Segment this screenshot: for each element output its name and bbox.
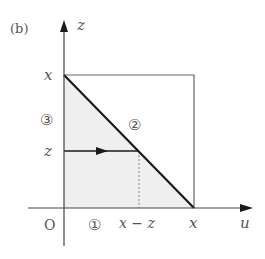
u-axis-tick-x-minus-z: x − z [119, 215, 156, 231]
region-label-1: ① [88, 216, 101, 234]
region-label-3: ③ [40, 111, 53, 129]
z-axis-tick-x: x [44, 66, 53, 84]
z-axis-tick-z: z [43, 142, 52, 160]
u-axis-tick-x: x [189, 214, 198, 232]
z-axis-arrow-icon [60, 20, 68, 32]
z-axis-label: z [76, 16, 85, 34]
region-label-2: ② [128, 116, 141, 134]
diagram-canvas: (b) z x z ③ ② O ① x − z x u [0, 0, 265, 259]
panel-label: (b) [10, 21, 28, 36]
u-axis-label: u [240, 214, 250, 232]
u-axis-arrow-icon [240, 204, 253, 212]
origin-label: O [44, 217, 55, 233]
